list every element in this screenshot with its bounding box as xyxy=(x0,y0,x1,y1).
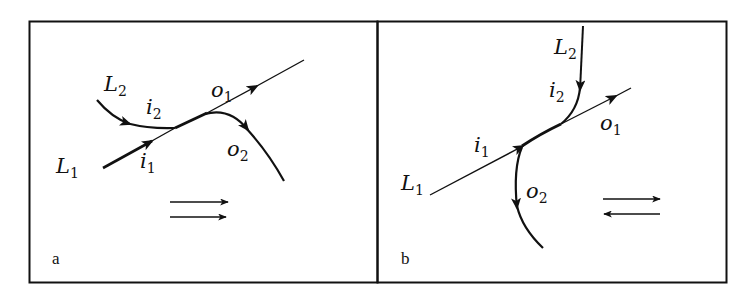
panel-a-label-L1: L1 xyxy=(55,154,79,181)
panel-b-label-i2: i2 xyxy=(549,78,565,105)
panel-b: L2 i2 o1 i1 L1 o2 b xyxy=(400,26,660,268)
figure-canvas: L2 i2 o1 L1 i1 o2 a xyxy=(0,0,754,298)
panel-a-label-i2: i2 xyxy=(146,95,162,122)
panel-a-label-i1: i1 xyxy=(140,149,156,176)
panel-a-letter: a xyxy=(52,249,60,268)
panel-a-label-o2: o2 xyxy=(227,137,249,164)
panel-a-shared-segment xyxy=(175,113,207,128)
panel-b-shared-segment xyxy=(522,124,561,146)
panel-b-opposing-arrows-icon xyxy=(603,199,660,214)
panel-a-label-L2: L2 xyxy=(103,72,127,99)
panel-b-label-i1: i1 xyxy=(474,133,490,160)
panel-b-line-o1 xyxy=(561,88,631,124)
panel-a-label-o1: o1 xyxy=(211,78,233,105)
panel-b-label-L2: L2 xyxy=(553,35,577,62)
panel-b-label-L1: L1 xyxy=(400,171,424,198)
panel-b-frame xyxy=(378,22,727,283)
panel-a-line-L2 xyxy=(97,100,175,128)
panel-a: L2 i2 o1 L1 i1 o2 a xyxy=(52,60,304,268)
panel-b-letter: b xyxy=(401,249,410,268)
panel-a-line-o2 xyxy=(205,112,284,181)
panel-a-frame xyxy=(30,22,378,283)
panel-b-label-o2: o2 xyxy=(526,179,548,206)
panel-a-parallel-arrows-icon xyxy=(170,202,228,217)
panel-b-label-o1: o1 xyxy=(600,111,622,138)
panel-a-line-L1 xyxy=(103,128,175,168)
